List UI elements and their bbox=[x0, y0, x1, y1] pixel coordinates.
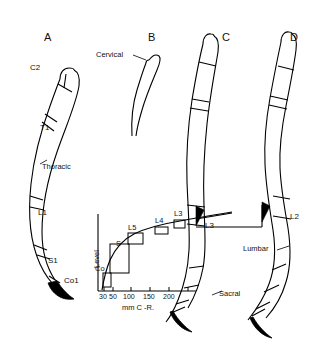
chart-box-s bbox=[110, 244, 129, 273]
segment-line-d-l2-upper bbox=[273, 196, 290, 199]
label-t1: T1 bbox=[40, 124, 49, 132]
panel-letter-d: D bbox=[290, 32, 298, 43]
label-cervical: Cervical bbox=[96, 51, 123, 59]
column-a-cranial-cap bbox=[60, 68, 74, 79]
segment-line-c-1 bbox=[199, 62, 216, 66]
segment-line-c-sacral-lower bbox=[184, 285, 199, 288]
chart-xtick-150: 150 bbox=[143, 293, 155, 300]
segment-line-c-sacral-upper bbox=[189, 266, 204, 268]
chart-x-axis-title: mm C -R. bbox=[122, 304, 154, 312]
column-d-outer-edge bbox=[266, 34, 296, 318]
chart-box-l4 bbox=[155, 227, 168, 234]
segment-line-d-2 bbox=[270, 96, 288, 100]
segment-line-d-1 bbox=[278, 66, 294, 70]
panel-b-cord bbox=[132, 55, 160, 136]
label-lumbar: Lumbar bbox=[243, 245, 268, 253]
chart-box-l5 bbox=[128, 233, 143, 244]
segment-line-t1-upper bbox=[45, 114, 57, 122]
column-c-cranial-cap bbox=[203, 34, 214, 44]
segment-line-c2-upper bbox=[64, 74, 66, 88]
cord-b-outer-edge bbox=[136, 55, 160, 136]
segment-line-c-2 bbox=[192, 99, 209, 102]
cord-b-tip bbox=[146, 60, 149, 63]
column-a-outer-edge bbox=[42, 70, 79, 280]
panel-letter-c: C bbox=[222, 32, 230, 43]
segment-line-d-sacral-lower bbox=[264, 285, 279, 292]
vertebral-column-figure bbox=[0, 0, 322, 349]
panel-letter-b: B bbox=[148, 32, 156, 43]
label-c-l3: L3 bbox=[205, 222, 214, 230]
label-s1: S1 bbox=[48, 257, 58, 265]
chart-xtick-100: 100 bbox=[123, 293, 135, 300]
label-thoracic: Thoracic bbox=[42, 163, 71, 171]
chart-point-label-l5: L5 bbox=[128, 224, 136, 232]
chart-xtick-30: 30 bbox=[99, 293, 107, 300]
marker-flag-l3 bbox=[196, 206, 204, 226]
lumbar-leader-line bbox=[277, 246, 289, 250]
column-c-inner-edge bbox=[166, 44, 203, 322]
panel-letter-a: A bbox=[44, 32, 52, 43]
cervical-leader-line bbox=[133, 55, 146, 60]
label-d-l2: L2 bbox=[290, 213, 299, 221]
segment-line-s1-upper bbox=[34, 245, 47, 250]
chart-x-ticks bbox=[104, 287, 188, 291]
chart-xtick-200: 200 bbox=[163, 293, 175, 300]
panel-c-coccyx-solid bbox=[170, 311, 192, 332]
label-co1: Co1 bbox=[64, 277, 79, 285]
panel-d-column bbox=[248, 32, 296, 320]
label-sacral: Sacral bbox=[219, 290, 240, 298]
chart-point-label-co: Co bbox=[95, 265, 105, 273]
cord-b-inner-edge bbox=[132, 63, 146, 136]
panel-d-coccyx-solid bbox=[250, 317, 272, 338]
segment-line-d-3 bbox=[269, 105, 287, 109]
segment-line-c-3 bbox=[190, 108, 208, 111]
label-c2: C2 bbox=[30, 64, 40, 72]
label-l1: L1 bbox=[38, 209, 47, 217]
column-d-inner-edge bbox=[248, 42, 281, 320]
chart-point-label-l4: L4 bbox=[155, 217, 163, 225]
chart-point-label-s: S bbox=[116, 240, 121, 248]
panel-c-column bbox=[166, 34, 218, 322]
segment-line-c2-lower bbox=[58, 84, 72, 92]
segment-line-l1-upper bbox=[30, 196, 43, 200]
chart-point-label-l3: L3 bbox=[174, 210, 182, 218]
segment-line-d-l2-lower bbox=[273, 216, 291, 219]
chart-xtick-50: 50 bbox=[109, 293, 117, 300]
